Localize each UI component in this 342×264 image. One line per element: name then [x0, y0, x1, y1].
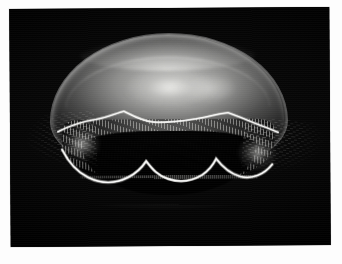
moon-jellyfish: [51, 34, 284, 213]
photo-background: [9, 7, 330, 247]
left-tentacle-root-glow: [60, 127, 100, 161]
page-root: A translucent moon jellyfish photographe…: [0, 0, 342, 264]
photograph-plate: [9, 7, 330, 247]
right-tentacle-root-glow: [238, 134, 280, 170]
tentacle-fringe: [80, 174, 258, 211]
